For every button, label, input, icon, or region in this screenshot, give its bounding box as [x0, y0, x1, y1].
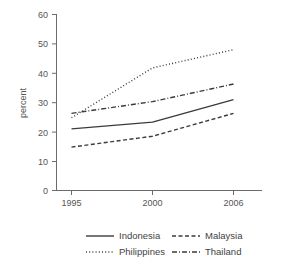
series-line-philippines	[72, 50, 234, 118]
legend-label-malaysia: Malaysia	[205, 230, 243, 241]
x-tick-label-2000: 2000	[142, 198, 162, 208]
series-line-indonesia	[72, 100, 234, 129]
y-tick-label-10: 10	[38, 157, 48, 167]
y-tick-label-20: 20	[38, 128, 48, 138]
line-chart: 60 50 40 30 20 10 0 percent 1995 2000 20…	[0, 0, 285, 267]
y-tick-label-30: 30	[38, 98, 48, 108]
data-series-group	[72, 50, 234, 147]
x-tick-marks	[72, 191, 234, 196]
series-line-malaysia	[72, 113, 234, 147]
y-tick-label-0: 0	[43, 186, 48, 196]
y-tick-label-40: 40	[38, 69, 48, 79]
series-line-thailand	[72, 84, 234, 113]
y-axis-title: percent	[18, 87, 28, 118]
x-tick-label-2006: 2006	[223, 198, 243, 208]
y-tick-label-50: 50	[38, 39, 48, 49]
legend-label-indonesia: Indonesia	[119, 230, 161, 241]
chart-figure: 60 50 40 30 20 10 0 percent 1995 2000 20…	[0, 0, 285, 267]
y-tick-label-60: 60	[38, 10, 48, 20]
legend-label-philippines: Philippines	[119, 246, 165, 257]
y-tick-marks	[52, 15, 57, 191]
chart-legend: Indonesia Malaysia Philippines Thailand	[86, 230, 243, 257]
x-tick-label-1995: 1995	[61, 198, 81, 208]
legend-label-thailand: Thailand	[205, 246, 241, 257]
